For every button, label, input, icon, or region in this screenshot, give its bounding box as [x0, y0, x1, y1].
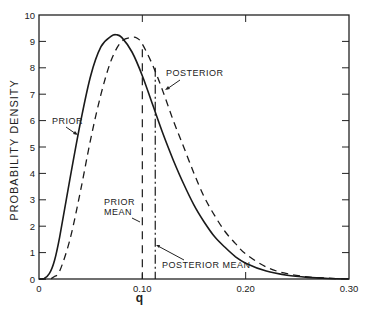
- posterior-annotation: POSTERIOR: [166, 68, 224, 78]
- y-tick-label: 4: [30, 168, 35, 179]
- prior-arrowhead-icon: [73, 131, 78, 135]
- probability-density-chart: 01234567891000.100.200.30 PROBABILITY DE…: [0, 0, 370, 314]
- y-tick-label: 0: [30, 274, 35, 285]
- y-tick-label: 8: [30, 62, 35, 73]
- posterior-mean-annotation: POSTERIOR MEAN: [162, 260, 251, 270]
- plot-frame: [39, 15, 349, 279]
- y-tick-label: 3: [30, 194, 35, 205]
- posterior-mean-arrowhead-icon: [156, 245, 160, 248]
- prior-mean-arrow: [132, 218, 140, 222]
- y-tick-label: 2: [30, 221, 35, 232]
- prior-mean-annotation-line1: PRIOR: [104, 197, 135, 207]
- x-tick-label: 0.20: [236, 283, 255, 294]
- x-tick-label: 0: [36, 283, 41, 294]
- y-tick-label: 10: [24, 10, 35, 21]
- y-tick-label: 1: [30, 247, 35, 258]
- y-axis-label: PROBABILITY DENSITY: [8, 79, 20, 221]
- y-tick-label: 7: [30, 89, 35, 100]
- plot-border: [39, 15, 349, 279]
- x-axis-label: q: [136, 291, 144, 305]
- y-tick-label: 6: [30, 115, 35, 126]
- prior-mean-annotation-line2: MEAN: [104, 207, 132, 217]
- y-tick-label: 9: [30, 36, 35, 47]
- y-tick-label: 5: [30, 142, 35, 153]
- axis-ticks: [39, 15, 349, 279]
- prior-annotation: PRIOR: [52, 116, 83, 126]
- posterior-arrowhead-icon: [165, 86, 170, 90]
- x-tick-label: 0.30: [340, 283, 359, 294]
- mean-lines: [142, 49, 155, 279]
- posterior-mean-arrow: [158, 246, 184, 260]
